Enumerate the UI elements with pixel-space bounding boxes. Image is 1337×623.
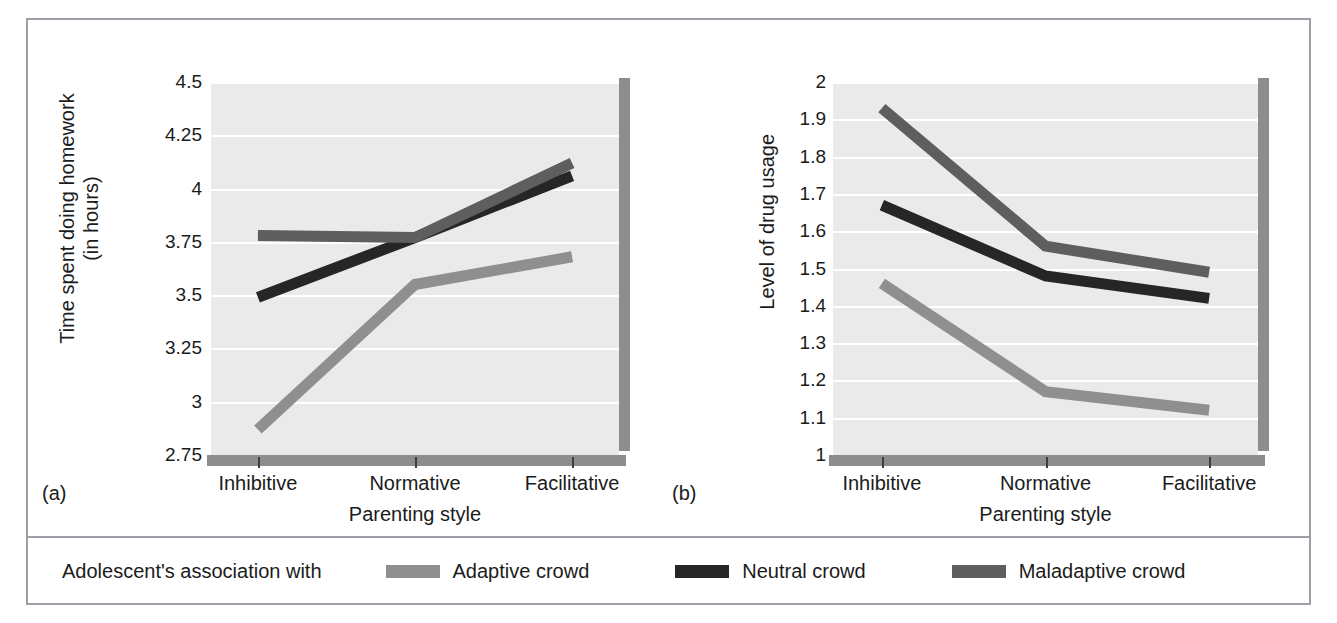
x-axis-category-label: Normative bbox=[369, 472, 460, 495]
legend-label: Neutral crowd bbox=[742, 560, 865, 583]
x-axis-labels-b: InhibitiveNormativeFacilitative bbox=[813, 472, 1278, 500]
legend-title: Adolescent's association with bbox=[62, 560, 322, 583]
legend-label: Maladaptive crowd bbox=[1019, 560, 1186, 583]
y-axis-tick-label: 3 bbox=[191, 391, 202, 413]
y-axis-tick-label: 1.7 bbox=[800, 183, 826, 205]
y-axis-tick-label: 3.5 bbox=[176, 284, 202, 306]
figure-frame: Time spent doing homework (in hours) 2.7… bbox=[26, 18, 1311, 605]
x-axis-tick-mark bbox=[258, 457, 260, 468]
plot-wall-right-b bbox=[1258, 78, 1269, 451]
series-line bbox=[882, 283, 1209, 410]
x-axis-category-label: Inhibitive bbox=[218, 472, 297, 495]
panel-tag-b: (b) bbox=[672, 482, 696, 505]
y-axis-ticks-b: 11.11.21.31.41.51.61.71.81.92 bbox=[764, 82, 826, 455]
y-axis-tick-label: 2 bbox=[815, 71, 826, 93]
y-axis-title-a: Time spent doing homework (in hours) bbox=[56, 79, 103, 359]
x-axis-tick-mark bbox=[572, 457, 574, 468]
series-lines-b bbox=[833, 82, 1258, 455]
y-axis-ticks-a: 2.7533.253.53.7544.254.5 bbox=[140, 82, 202, 455]
x-axis-tick-mark bbox=[1209, 457, 1211, 468]
chart-panel-a: Time spent doing homework (in hours) 2.7… bbox=[28, 20, 668, 510]
series-line bbox=[258, 163, 572, 238]
x-axis-labels-a: InhibitiveNormativeFacilitative bbox=[188, 472, 643, 500]
y-axis-tick-label: 1.5 bbox=[800, 258, 826, 280]
y-axis-tick-label: 1.3 bbox=[800, 332, 826, 354]
legend-item[interactable]: Maladaptive crowd bbox=[952, 560, 1186, 583]
legend-inner: Adolescent's association with Adaptive c… bbox=[28, 560, 1309, 583]
legend-swatch-icon bbox=[675, 565, 729, 578]
panel-tag-a: (a) bbox=[42, 482, 66, 505]
x-axis-category-label: Facilitative bbox=[525, 472, 619, 495]
legend-swatch-icon bbox=[952, 565, 1006, 578]
x-axis-tick-mark bbox=[415, 457, 417, 468]
y-axis-tick-label: 3.25 bbox=[165, 337, 202, 359]
y-axis-tick-label: 1.4 bbox=[800, 295, 826, 317]
x-axis-category-label: Facilitative bbox=[1162, 472, 1256, 495]
series-lines-a bbox=[211, 82, 619, 455]
x-axis-title-b: Parenting style bbox=[833, 503, 1258, 526]
chart-panel-b: Level of drug usage 11.11.21.31.41.51.61… bbox=[668, 20, 1308, 510]
plot-area-a bbox=[211, 82, 619, 455]
y-axis-tick-label: 4.5 bbox=[176, 71, 202, 93]
legend-label: Adaptive crowd bbox=[453, 560, 590, 583]
y-axis-tick-label: 3.75 bbox=[165, 231, 202, 253]
y-axis-tick-label: 4.25 bbox=[165, 124, 202, 146]
series-line bbox=[882, 205, 1209, 298]
x-axis-ticks-a bbox=[211, 457, 619, 469]
x-axis-category-label: Inhibitive bbox=[842, 472, 921, 495]
x-axis-category-label: Normative bbox=[1000, 472, 1091, 495]
y-axis-tick-label: 1.2 bbox=[800, 369, 826, 391]
plot-area-b bbox=[833, 82, 1258, 455]
y-axis-tick-label: 2.75 bbox=[165, 444, 202, 466]
y-axis-tick-label: 1.9 bbox=[800, 108, 826, 130]
x-axis-ticks-b bbox=[833, 457, 1258, 469]
plot-wall-right-a bbox=[619, 78, 630, 451]
legend: Adolescent's association with Adaptive c… bbox=[28, 536, 1309, 606]
figure-page: Time spent doing homework (in hours) 2.7… bbox=[0, 0, 1337, 623]
legend-swatch-icon bbox=[386, 565, 440, 578]
y-axis-tick-label: 4 bbox=[191, 178, 202, 200]
legend-item[interactable]: Neutral crowd bbox=[675, 560, 865, 583]
y-axis-tick-label: 1.1 bbox=[800, 407, 826, 429]
x-axis-title-a: Parenting style bbox=[211, 503, 619, 526]
y-axis-tick-label: 1.8 bbox=[800, 146, 826, 168]
charts-row: Time spent doing homework (in hours) 2.7… bbox=[28, 20, 1309, 510]
x-axis-tick-mark bbox=[882, 457, 884, 468]
x-axis-tick-mark bbox=[1046, 457, 1048, 468]
y-axis-tick-label: 1.6 bbox=[800, 220, 826, 242]
legend-item[interactable]: Adaptive crowd bbox=[386, 560, 590, 583]
y-axis-tick-label: 1 bbox=[815, 444, 826, 466]
series-line bbox=[882, 108, 1209, 272]
